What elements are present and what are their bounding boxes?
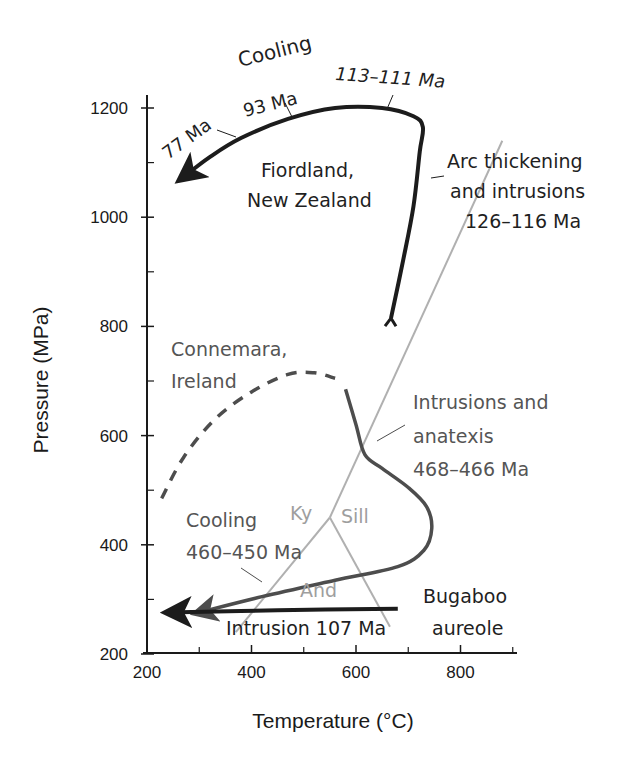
x-tick-label: 800 [446,663,474,682]
annot-intrusions-3: 468–466 Ma [413,458,529,480]
y-tick-label: 200 [100,645,128,664]
leader-77 [217,130,236,137]
annot-arc-3: 126–116 Ma [465,210,581,232]
annot-age-77: 77 Ma [158,114,215,163]
annot-cooling-connemara-2: 460–450 Ma [186,541,302,563]
annot-age-113: 113–111 Ma [335,63,446,92]
series-path-0 [181,107,423,318]
annot-connemara-2: Ireland [171,370,237,392]
phase-boundary-ky-and [236,518,330,633]
x-tick-label: 600 [342,663,370,682]
annot-age-93: 93 Ma [241,87,300,121]
y-tick-label: 600 [100,427,128,446]
annot-arc-2: and intrusions [450,180,585,202]
y-tick-label: 800 [100,317,128,336]
leader-cooling-connemara [241,568,262,582]
annot-and: And [300,579,337,601]
y-tick-label: 1200 [90,99,128,118]
y-tick-label: 400 [100,536,128,555]
annotations: Cooling 77 Ma 93 Ma 113–111 Ma Fiordland… [158,30,585,639]
annot-connemara-1: Connemara, [171,338,287,360]
annot-bugaboo-2: aureole [432,617,503,639]
x-axis-title: Temperature (°C) [252,709,413,732]
x-tick-label: 200 [133,663,161,682]
leader-113 [387,95,393,109]
annot-sill: Sill [341,505,369,527]
leader-intrusions [377,425,405,441]
annot-ky: Ky [290,502,312,524]
y-tick-label: 1000 [90,208,128,227]
fiordland-start-fork [385,318,396,326]
annot-fiordland-2: New Zealand [247,189,372,211]
x-tick-label: 400 [237,663,265,682]
pt-diagram: 20040060080020040060080010001200 Tempera… [0,0,635,768]
annot-cooling-fiordland: Cooling [235,30,314,71]
annot-arc-1: Arc thickening [447,150,583,172]
leader-arc [431,176,444,178]
annot-intrusions-2: anatexis [413,425,494,447]
annot-intrusion-107: Intrusion 107 Ma [226,617,386,639]
annot-intrusions-1: Intrusions and [413,391,548,413]
series-path-3 [168,609,398,613]
annot-fiordland-1: Fiordland, [261,159,354,181]
y-axis-title: Pressure (MPa) [29,306,52,453]
annot-cooling-connemara-1: Cooling [186,509,257,531]
annot-bugaboo-1: Bugaboo [423,585,507,607]
